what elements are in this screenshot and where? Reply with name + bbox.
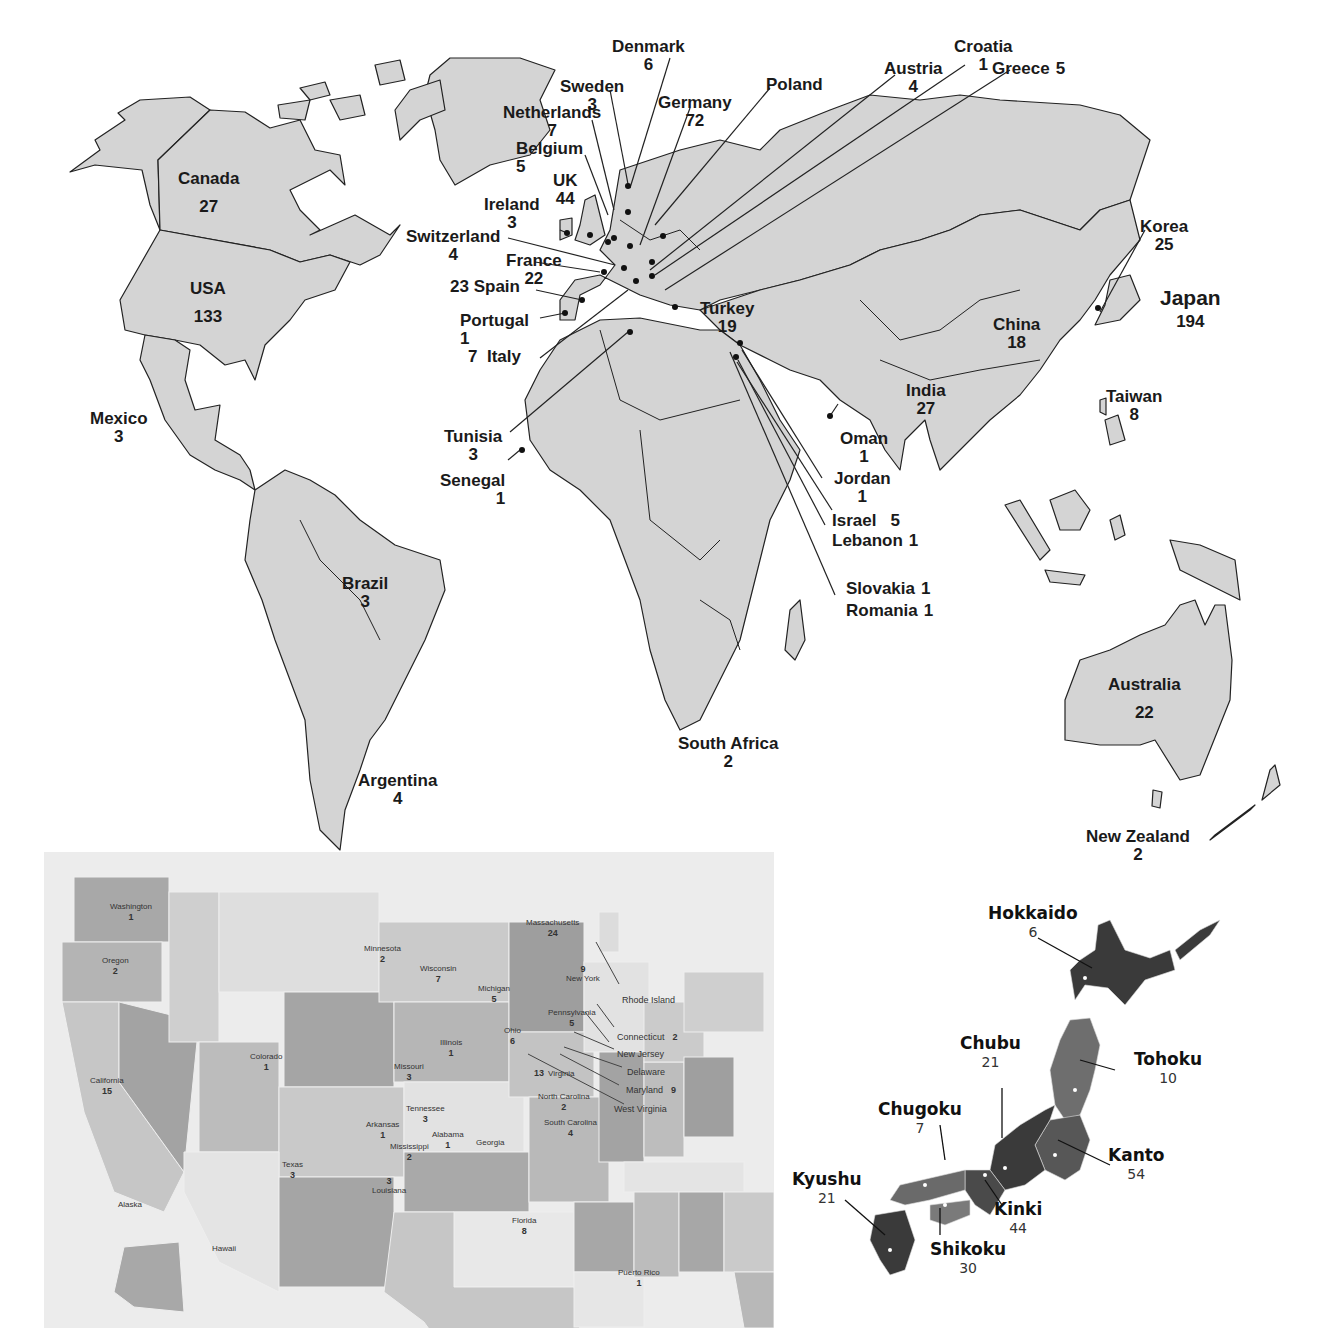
label-slovakia: Slovakia1: [846, 580, 930, 598]
madagascar-shape: [785, 600, 805, 660]
label-portugal: Portugal1: [460, 312, 529, 348]
label-austria: Austria4: [884, 60, 943, 96]
label-spain: 23 Spain: [450, 278, 520, 296]
hokkaido-shape: [1070, 920, 1175, 1005]
label-greece: Greece5: [992, 60, 1065, 78]
world-map: Canada27 USA133 Mexico3 Brazil3 Argentin…: [0, 0, 1320, 860]
label-new-zealand: New Zealand2: [1086, 828, 1190, 864]
label-mexico: Mexico3: [90, 410, 148, 446]
callout-connecticut: Connecticut2: [617, 1032, 678, 1042]
region-label-kyushu: Kyushu21: [792, 1170, 862, 1208]
usa-map: Washington1 Oregon2 California15 Colorad…: [44, 852, 774, 1328]
new-zealand-shape: [1262, 765, 1280, 800]
label-senegal: Senegal1: [440, 472, 505, 508]
japan-map: Hokkaido6 Tohoku10 Chubu21 Kanto54 Chugo…: [780, 870, 1320, 1330]
label-japan: Japan194: [1160, 286, 1221, 334]
region-label-kanto: Kanto54: [1108, 1146, 1165, 1184]
label-china: China18: [993, 316, 1040, 352]
callout-new-jersey: New Jersey: [617, 1049, 664, 1059]
region-label-shikoku: Shikoku30: [930, 1240, 1006, 1278]
label-turkey: Turkey19: [700, 300, 755, 336]
label-italy: 7 Italy: [468, 348, 521, 366]
label-oman: Oman1: [840, 430, 888, 466]
label-taiwan: Taiwan8: [1106, 388, 1162, 424]
label-israel: Israel5: [832, 512, 900, 530]
region-label-chugoku: Chugoku7: [878, 1100, 962, 1138]
label-tunisia: Tunisia3: [444, 428, 502, 464]
label-jordan: Jordan1: [834, 470, 891, 506]
callout-west-virginia: West Virginia: [614, 1104, 667, 1114]
callout-rhode-island: Rhode Island: [622, 995, 675, 1005]
label-uk: UK44: [553, 172, 578, 208]
label-south-africa: South Africa2: [678, 735, 778, 771]
tohoku-shape: [1050, 1018, 1100, 1120]
label-netherlands: Netherlands7: [503, 104, 601, 140]
label-usa: USA133: [190, 280, 226, 326]
label-australia: Australia22: [1108, 676, 1181, 722]
label-canada: Canada27: [178, 170, 239, 216]
africa-shape: [525, 318, 800, 730]
ireland-shape: [560, 218, 572, 240]
callout-maryland: Maryland9: [626, 1085, 676, 1095]
label-brazil: Brazil3: [342, 575, 388, 611]
kyushu-shape: [870, 1210, 915, 1275]
label-germany: Germany72: [658, 94, 732, 130]
region-label-hokkaido: Hokkaido6: [988, 904, 1078, 942]
chugoku-shape: [890, 1170, 965, 1205]
callout-delaware: Delaware: [627, 1067, 665, 1077]
label-india: India27: [906, 382, 946, 418]
label-argentina: Argentina4: [358, 772, 437, 808]
region-label-kinki: Kinki44: [994, 1200, 1042, 1238]
label-denmark: Denmark6: [612, 38, 685, 74]
shikoku-shape: [930, 1200, 970, 1225]
label-lebanon: Lebanon1: [832, 532, 918, 550]
region-label-tohoku: Tohoku10: [1134, 1050, 1202, 1088]
label-korea: Korea25: [1140, 218, 1188, 254]
region-label-chubu: Chubu21: [960, 1034, 1021, 1072]
label-romania: Romania1: [846, 602, 933, 620]
label-switzerland: Switzerland4: [406, 228, 500, 264]
label-poland: Poland: [766, 76, 823, 94]
